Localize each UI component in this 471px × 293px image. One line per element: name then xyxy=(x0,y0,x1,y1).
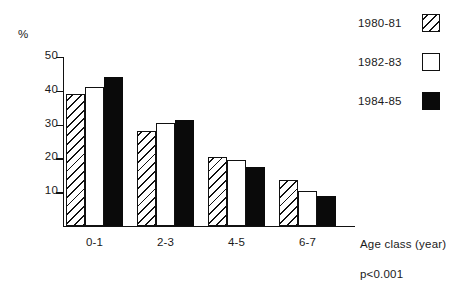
bar-1982-83-4-5 xyxy=(227,160,246,226)
legend-label: 1984-85 xyxy=(358,95,422,107)
p-value-annotation: p<0.001 xyxy=(360,268,403,280)
x-axis-title: Age class (year) xyxy=(360,238,446,250)
y-tick-label: 30 xyxy=(45,117,58,129)
legend-swatch-hatched xyxy=(422,14,440,32)
bar-1982-83-0-1 xyxy=(85,87,104,226)
bar-1982-83-6-7 xyxy=(298,191,317,226)
legend-item-1982-83: 1982-83 xyxy=(358,51,468,73)
y-tick-label: 50 xyxy=(45,49,58,61)
bar-group-2-3 xyxy=(137,120,194,226)
bar-1984-85-0-1 xyxy=(104,77,123,226)
bar-chart-figure: % 1020304050 0-12-34-56-7 1980-81 1982-8… xyxy=(0,0,471,293)
bar-1984-85-2-3 xyxy=(175,120,194,226)
bar-group-6-7 xyxy=(279,180,336,226)
legend-label: 1982-83 xyxy=(358,56,422,68)
bar-1984-85-4-5 xyxy=(246,167,265,226)
x-category-label-6-7: 6-7 xyxy=(278,236,338,248)
x-category-label-4-5: 4-5 xyxy=(207,236,267,248)
legend-item-1984-85: 1984-85 xyxy=(358,90,468,112)
bar-group-4-5 xyxy=(208,157,265,226)
y-tick-label: 40 xyxy=(45,83,58,95)
y-tick-label: 10 xyxy=(45,184,58,196)
bar-1982-83-2-3 xyxy=(156,123,175,226)
legend-swatch-open xyxy=(422,53,440,71)
x-axis-line xyxy=(63,226,355,227)
bar-1984-85-6-7 xyxy=(317,196,336,226)
bar-group-0-1 xyxy=(66,77,123,226)
y-axis-unit-label: % xyxy=(18,28,28,40)
bar-1980-81-0-1 xyxy=(66,94,85,226)
bar-1980-81-6-7 xyxy=(279,180,298,226)
legend-label: 1980-81 xyxy=(358,17,422,29)
x-category-label-0-1: 0-1 xyxy=(65,236,125,248)
legend: 1980-81 1982-83 1984-85 xyxy=(358,12,468,129)
bar-1980-81-2-3 xyxy=(137,131,156,226)
plot-area: 1020304050 xyxy=(63,57,355,226)
x-category-label-2-3: 2-3 xyxy=(136,236,196,248)
y-tick-label: 20 xyxy=(45,150,58,162)
legend-swatch-solid xyxy=(422,92,440,110)
bar-1980-81-4-5 xyxy=(208,157,227,226)
legend-item-1980-81: 1980-81 xyxy=(358,12,468,34)
